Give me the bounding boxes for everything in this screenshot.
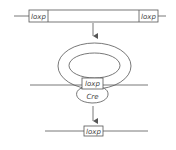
cre-label: Cre <box>86 93 98 101</box>
loxp-label: loxp <box>85 80 100 88</box>
step2-loop: loxp Cre <box>30 43 148 103</box>
inner-loop <box>69 53 120 78</box>
step1-construct: loxp loxp <box>14 10 166 22</box>
loxp-label-right: loxp <box>141 13 156 21</box>
step3-result: loxp <box>45 126 148 136</box>
loxp-label-left: loxp <box>31 13 46 21</box>
cre-lox-diagram: loxp loxp loxp Cre loxp <box>0 0 176 150</box>
loxp-label: loxp <box>86 128 101 136</box>
